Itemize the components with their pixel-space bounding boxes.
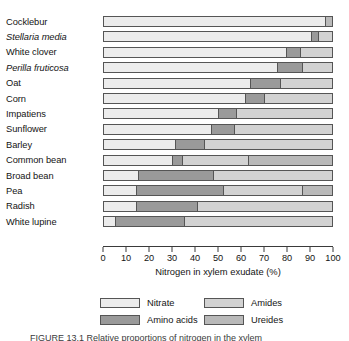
bar-segment-amides — [280, 79, 332, 88]
x-axis-tick-label: 80 — [282, 253, 292, 264]
stacked-bar — [103, 139, 333, 150]
bar-segment-amides — [300, 48, 332, 57]
legend-swatch-amino-acids — [100, 315, 140, 325]
x-axis-tick-label: 20 — [144, 253, 154, 264]
stacked-bar — [103, 170, 333, 181]
bar-segment-amino-acids — [286, 48, 300, 57]
row-label: Perilla fruticosa — [0, 63, 97, 73]
row-label: White clover — [0, 47, 97, 57]
bar-segment-amino-acids — [172, 156, 181, 165]
bar-segment-nitrate — [104, 79, 250, 88]
chart-row: White lupine — [0, 214, 349, 229]
bar-segment-nitrate — [104, 63, 277, 72]
legend-item: Ureides — [204, 315, 314, 325]
bar-segment-amides — [182, 156, 248, 165]
bar-segment-amides — [184, 217, 332, 226]
legend-swatch-nitrate — [100, 298, 140, 308]
row-label: Corn — [0, 94, 97, 104]
row-label: Cocklebur — [0, 17, 97, 27]
chart-row: White clover — [0, 45, 349, 60]
x-axis-tick — [103, 247, 104, 252]
x-axis-tick — [149, 247, 150, 252]
row-label: Barley — [0, 140, 97, 150]
row-label: Radish — [0, 201, 97, 211]
chart-row: Radish — [0, 199, 349, 214]
legend-item: Amides — [204, 298, 314, 308]
bar-segment-amides — [197, 202, 332, 211]
x-axis-tick — [218, 247, 219, 252]
bar-segment-amides — [302, 63, 332, 72]
bar-segment-amino-acids — [218, 109, 236, 118]
row-label: White lupine — [0, 217, 97, 227]
chart-row: Corn — [0, 91, 349, 106]
bar-segment-amides — [223, 186, 303, 195]
figure-caption: FIGURE 13.1 Relative proportions of nitr… — [30, 333, 330, 341]
x-axis-tick-label: 90 — [305, 253, 315, 264]
chart-row: Sunflower — [0, 122, 349, 137]
x-axis-tick-label: 100 — [325, 253, 340, 264]
row-label: Impatiens — [0, 109, 97, 119]
bar-segment-amino-acids — [250, 79, 280, 88]
stacked-bar — [103, 155, 333, 166]
bar-segment-amides — [318, 32, 332, 41]
bar-segment-amides — [213, 171, 332, 180]
bar-segment-nitrate — [104, 48, 286, 57]
chart-container: CockleburStellaria mediaWhite cloverPeri… — [0, 0, 349, 341]
x-axis-tick — [264, 247, 265, 252]
stacked-bar — [103, 31, 333, 42]
x-axis-tick-label: 10 — [121, 253, 131, 264]
x-axis-tick — [310, 247, 311, 252]
x-axis-tick-labels: 0102030405060708090100 — [103, 253, 333, 265]
chart-row: Perilla fruticosa — [0, 60, 349, 75]
bar-segment-amides — [234, 125, 332, 134]
bar-segment-nitrate — [104, 32, 311, 41]
bar-segment-amino-acids — [136, 186, 223, 195]
x-axis-tick — [241, 247, 242, 252]
legend-label: Nitrate — [147, 298, 174, 308]
legend-item: Nitrate — [100, 298, 204, 308]
chart-row: Stellaria media — [0, 29, 349, 44]
x-axis-tick — [287, 247, 288, 252]
stacked-bar — [103, 62, 333, 73]
bar-segment-nitrate — [104, 94, 245, 103]
bar-segment-amino-acids — [277, 63, 302, 72]
x-axis-tick-label: 40 — [190, 253, 200, 264]
bar-segment-amino-acids — [211, 125, 234, 134]
chart-row: Barley — [0, 137, 349, 152]
chart-row: Oat — [0, 76, 349, 91]
stacked-bar — [103, 108, 333, 119]
chart-row: Impatiens — [0, 106, 349, 121]
stacked-bar — [103, 216, 333, 227]
bar-segment-amino-acids — [138, 171, 213, 180]
chart-row: Broad bean — [0, 168, 349, 183]
bar-segment-amino-acids — [136, 202, 198, 211]
bar-segment-amino-acids — [175, 140, 205, 149]
chart-legend: NitrateAmidesAmino acidsUreides — [100, 294, 314, 328]
bar-segment-ureides — [302, 186, 332, 195]
stacked-bar — [103, 78, 333, 89]
row-label: Common bean — [0, 155, 97, 165]
legend-label: Amino acids — [147, 315, 198, 325]
x-axis-tick — [126, 247, 127, 252]
x-axis-tick-label: 30 — [167, 253, 177, 264]
bar-segment-ureides — [325, 17, 332, 26]
stacked-bar — [103, 185, 333, 196]
bar-segment-amino-acids — [245, 94, 263, 103]
stacked-bar — [103, 124, 333, 135]
stacked-bar — [103, 47, 333, 58]
legend-label: Ureides — [251, 315, 283, 325]
bar-segment-nitrate — [104, 109, 218, 118]
bar-segment-amides — [204, 140, 332, 149]
bar-segment-nitrate — [104, 125, 211, 134]
row-label: Stellaria media — [0, 32, 97, 42]
x-axis-tick-label: 50 — [213, 253, 223, 264]
stacked-bar — [103, 201, 333, 212]
stacked-bar — [103, 93, 333, 104]
row-label: Oat — [0, 78, 97, 88]
legend-item: Amino acids — [100, 315, 204, 325]
bar-segment-amides — [236, 109, 332, 118]
bar-segment-nitrate — [104, 156, 172, 165]
chart-row: Pea — [0, 183, 349, 198]
legend-swatch-ureides — [204, 315, 244, 325]
x-axis-tick-label: 70 — [259, 253, 269, 264]
